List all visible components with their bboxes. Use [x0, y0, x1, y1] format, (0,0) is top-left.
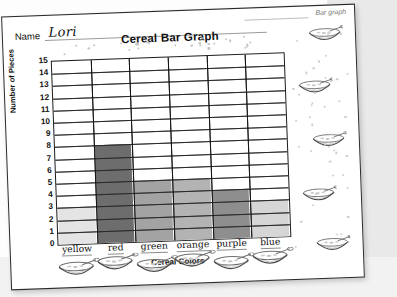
- sprinkle-dot: [174, 44, 176, 46]
- sprinkle-dot: [314, 92, 316, 94]
- cereal-bowl-icon: [307, 131, 348, 152]
- bar-green: [135, 179, 174, 241]
- sprinkle-dot: [323, 144, 325, 146]
- sprinkle-dot: [191, 44, 193, 46]
- sprinkle-dot: [324, 77, 326, 79]
- sprinkle-dot: [311, 104, 313, 106]
- sprinkle-dot: [343, 131, 345, 133]
- sprinkle-dot: [208, 43, 210, 45]
- sprinkle-dot: [318, 60, 320, 62]
- worksheet-screenshot: Name Lori Cereal Bar Graph Bar graph Num…: [0, 0, 397, 297]
- sprinkle-dot: [322, 188, 324, 190]
- sprinkle-dot: [208, 47, 210, 49]
- sprinkle-dot: [213, 43, 215, 45]
- y-tick-1: 1: [32, 227, 54, 237]
- bar-yellow: [58, 207, 96, 245]
- sprinkle-dot: [310, 150, 312, 152]
- sprinkle-dot: [314, 193, 316, 195]
- corner-tag: Bar graph: [315, 8, 346, 16]
- sprinkle-dot: [298, 146, 300, 148]
- cereal-bowl-icon: [310, 235, 351, 256]
- sprinkle-dot: [346, 73, 348, 75]
- y-tick-13: 13: [26, 80, 48, 90]
- sprinkle-dot: [244, 46, 246, 48]
- sprinkle-dot: [305, 72, 307, 74]
- sprinkle-dot: [93, 44, 95, 46]
- y-tick-2: 2: [31, 214, 53, 224]
- y-tick-4: 4: [31, 190, 53, 200]
- y-tick-15: 15: [26, 56, 48, 66]
- y-tick-3: 3: [31, 202, 53, 212]
- cereal-bowl-icon: [303, 25, 344, 46]
- sprinkle-dot: [347, 216, 349, 218]
- x-tick-yellow: yellow: [57, 242, 96, 256]
- y-tick-5: 5: [30, 178, 52, 188]
- sprinkle-dot: [300, 221, 302, 223]
- y-tick-0: 0: [32, 239, 54, 249]
- sprinkle-dot: [243, 35, 245, 37]
- chart-plot-area: [51, 52, 292, 245]
- sprinkle-dot: [328, 146, 330, 148]
- sprinkle-dot: [201, 37, 203, 39]
- sprinkle-dot: [333, 245, 335, 247]
- sprinkle-dot: [129, 49, 131, 51]
- y-tick-9: 9: [28, 129, 50, 139]
- sprinkle-dot: [63, 53, 65, 55]
- cereal-bowl-icon: [293, 77, 334, 98]
- sprinkle-dot: [229, 39, 231, 41]
- sprinkle-dot: [324, 105, 326, 107]
- sprinkle-dot: [346, 155, 348, 157]
- sprinkle-dot: [324, 55, 326, 57]
- sprinkle-dot: [313, 67, 315, 69]
- sprinkle-dot: [147, 41, 149, 43]
- sprinkle-dot: [88, 47, 90, 49]
- sprinkle-dot: [309, 116, 311, 118]
- sprinkle-dot: [120, 42, 122, 44]
- y-tick-7: 7: [29, 153, 51, 163]
- sprinkle-dot: [336, 78, 338, 80]
- sprinkle-dot: [225, 38, 227, 40]
- y-tick-8: 8: [29, 141, 51, 151]
- sprinkle-dot: [338, 100, 340, 102]
- y-tick-10: 10: [28, 117, 50, 127]
- sprinkle-dot: [335, 152, 337, 154]
- sprinkle-dot: [347, 241, 349, 243]
- cereal-bowl-icon: [247, 247, 294, 269]
- sprinkle-dot: [298, 93, 300, 95]
- bar-blue: [251, 200, 289, 238]
- sprinkle-dot: [346, 187, 348, 189]
- sprinkle-dot: [295, 120, 297, 122]
- sprinkle-dot: [340, 233, 342, 235]
- y-tick-12: 12: [27, 92, 49, 102]
- sprinkle-dot: [337, 234, 339, 236]
- sprinkle-dot: [312, 89, 314, 91]
- sprinkle-dot: [137, 48, 139, 50]
- sprinkle-dot: [327, 33, 329, 35]
- sprinkle-dot: [312, 204, 314, 206]
- sprinkle-dot: [330, 134, 332, 136]
- sprinkle-dot: [292, 88, 294, 90]
- y-tick-14: 14: [26, 68, 48, 78]
- sprinkle-dot: [332, 175, 334, 177]
- sprinkle-dot: [333, 149, 335, 151]
- x-tick-green: green: [135, 239, 174, 253]
- name-label: Name: [15, 30, 41, 42]
- sprinkle-dot: [199, 45, 201, 47]
- sprinkle-dot: [249, 42, 251, 44]
- x-tick-purple: purple: [212, 237, 251, 251]
- y-axis-title: Number of Pieces: [6, 49, 17, 113]
- sprinkle-dot: [340, 32, 342, 34]
- bar-orange: [173, 178, 212, 240]
- sprinkle-dot: [330, 81, 332, 83]
- decorative-bowls: [286, 19, 361, 271]
- sprinkle-dot: [136, 43, 138, 45]
- sprinkle-dot: [75, 44, 77, 46]
- sprinkle-dot: [311, 124, 313, 126]
- cereal-bowl-icon: [297, 185, 338, 206]
- sprinkle-dot: [344, 116, 346, 118]
- sprinkle-dot: [296, 40, 298, 42]
- sprinkle-dot: [342, 174, 344, 176]
- name-value: Lori: [48, 24, 77, 40]
- y-axis-ticks: 0123456789101112131415: [26, 56, 55, 252]
- y-tick-6: 6: [30, 166, 52, 176]
